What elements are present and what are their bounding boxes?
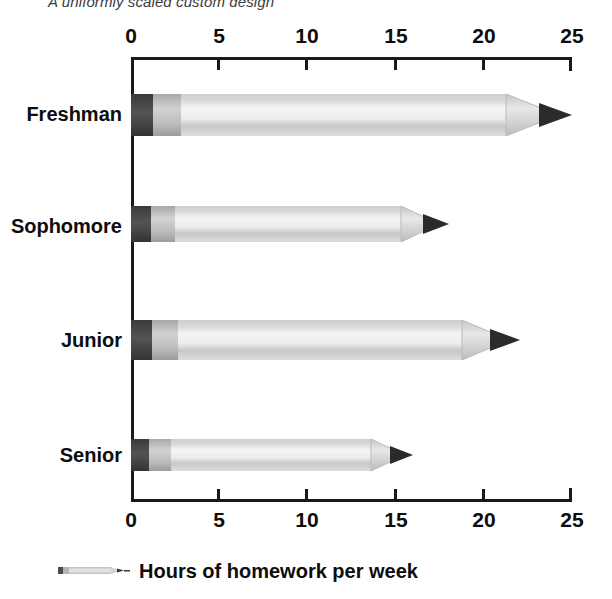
x-tick-label-top-5: 5: [213, 24, 225, 48]
pencil-ferrule: [149, 439, 171, 471]
x-tick-label-top-15: 15: [384, 24, 407, 48]
axis-top-line: [131, 57, 572, 60]
x-tick-label-bottom-25: 25: [560, 508, 583, 532]
x-tick-label-top-20: 20: [472, 24, 495, 48]
x-tick-bottom-10: [305, 489, 308, 502]
pencil-graphite-tip: [539, 103, 572, 127]
pencil-ferrule: [151, 206, 175, 242]
x-tick-label-top-10: 10: [295, 24, 318, 48]
axis-bottom-line: [131, 499, 572, 502]
x-tick-bottom-15: [394, 489, 397, 502]
pencil-body: [175, 206, 401, 242]
pencil-body: [181, 94, 506, 136]
category-label-junior: Junior: [0, 329, 122, 352]
pencil-eraser: [131, 320, 152, 360]
pencil-ferrule: [153, 94, 181, 136]
x-tick-label-bottom-20: 20: [472, 508, 495, 532]
x-tick-top-20: [482, 57, 485, 70]
x-tick-label-bottom-15: 15: [384, 508, 407, 532]
category-label-senior: Senior: [0, 444, 122, 467]
pencil-body: [171, 439, 371, 471]
x-tick-label-bottom-5: 5: [213, 508, 225, 532]
x-tick-label-top-25: 25: [560, 24, 583, 48]
bar-senior[interactable]: [131, 437, 416, 473]
pencil-graphite-tip: [490, 329, 520, 351]
category-label-freshman: Freshman: [0, 103, 122, 126]
bar-sophomore[interactable]: [131, 204, 452, 244]
x-tick-bottom-5: [217, 489, 220, 502]
pencil-ferrule: [152, 320, 178, 360]
pencil-graphite-tip: [423, 214, 449, 234]
x-tick-top-10: [305, 57, 308, 70]
x-tick-bottom-25: [569, 489, 572, 502]
axis-right-cap-top: [569, 57, 572, 71]
bar-junior[interactable]: [131, 318, 524, 362]
x-tick-label-bottom-10: 10: [295, 508, 318, 532]
x-tick-label-top-0: 0: [125, 24, 137, 48]
y-axis-category-labels: Freshman Sophomore Junior Senior: [0, 0, 122, 599]
legend-label: Hours of homework per week: [139, 560, 418, 583]
bar-freshman[interactable]: [131, 92, 576, 138]
pencil-body: [178, 320, 462, 360]
pencil-eraser: [131, 439, 149, 471]
pencil-eraser: [131, 94, 153, 136]
x-tick-top-5: [217, 57, 220, 70]
pencil-eraser: [131, 206, 151, 242]
x-tick-bottom-20: [482, 489, 485, 502]
chart-legend: Hours of homework per week: [58, 560, 418, 583]
x-tick-label-bottom-0: 0: [125, 508, 137, 532]
category-label-sophomore: Sophomore: [0, 215, 122, 238]
pencil-graphite-tip: [390, 446, 413, 464]
pencil-icon: [58, 563, 130, 581]
x-tick-top-15: [394, 57, 397, 70]
